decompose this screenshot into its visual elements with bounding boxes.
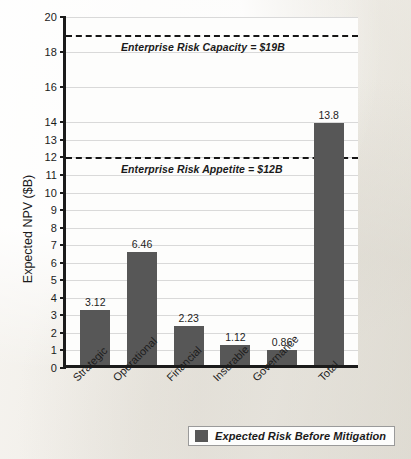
y-axis-tick-label: 10 [45,187,57,198]
x-axis-category-slot: Total [305,371,352,431]
y-axis-tick-label: 8 [51,222,57,233]
y-axis-tick-label: 14 [45,117,57,128]
y-axis-tick-label: 20 [45,12,57,23]
y-axis-tick-label: 3 [51,310,57,321]
y-axis-tick-label: 12 [45,152,57,163]
plot-area: 01234567891011121314161820Enterprise Ris… [63,17,358,368]
bar-value-label: 2.23 [178,313,198,324]
y-axis-tick-label: 16 [45,82,57,93]
x-axis-category-slot: Governance [258,371,305,431]
y-axis-tick-label: 18 [45,47,57,58]
y-axis-tick-label: 2 [51,327,57,338]
y-axis-tick-label: 1 [51,345,57,356]
y-axis-tick-label: 4 [51,292,57,303]
legend-swatch-expected-risk-before-mitigation [195,430,208,442]
y-axis-title: Expected NPV ($B) [18,150,38,310]
bar-slot: 6.46 [119,17,166,365]
x-axis-category-slot: Strategic [69,371,116,431]
bar-slot: 13.8 [305,17,352,365]
bar-slot: 0.86 [259,17,306,365]
x-axis-category-slot: Insurable [211,371,258,431]
y-axis-tick-label: 7 [51,240,57,251]
y-axis-tick-label: 11 [45,169,57,180]
bar-total[interactable]: 13.8 [314,123,344,365]
bar-value-label: 6.46 [132,239,152,250]
legend-label-expected-risk-before-mitigation: Expected Risk Before Mitigation [215,430,386,442]
y-axis-tick-label: 13 [45,134,57,145]
y-axis-title-label: Expected NPV ($B) [21,149,35,309]
bar-slot: 3.12 [72,17,119,365]
x-axis-categories: StrategicOperationalFinancialInsurableGo… [63,371,358,431]
y-axis-tick-mark [60,367,66,369]
bar-value-label: 13.8 [318,110,338,121]
bar-slot: 1.12 [212,17,259,365]
plot-inner: 01234567891011121314161820Enterprise Ris… [66,17,358,365]
x-axis-category-slot: Financial [163,371,210,431]
bars-layer: 3.126.462.231.120.8613.8 [66,17,358,365]
y-axis-tick-label: 6 [51,257,57,268]
y-axis-tick-label: 9 [51,205,57,216]
bar-value-label: 3.12 [85,297,105,308]
y-axis-tick-label: 0 [51,363,57,374]
chart-legend: Expected Risk Before Mitigation [188,426,395,446]
bar-slot: 2.23 [165,17,212,365]
x-axis-category-slot: Operational [116,371,163,431]
y-axis-tick-label: 5 [51,275,57,286]
bar-value-label: 1.12 [225,332,245,343]
bar-chart: Expected NPV ($B) 0123456789101112131416… [0,0,411,459]
